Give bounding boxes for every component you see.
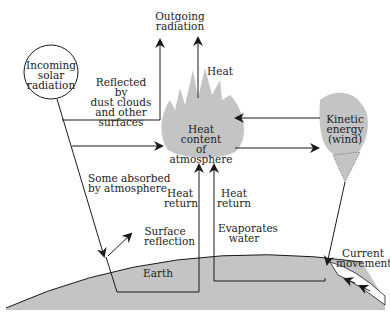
heat-return-2-label: Heat return [217, 188, 251, 208]
earth-shape [6, 255, 385, 310]
incoming-solar-label: Incoming solar radiation [24, 60, 78, 90]
earth-label: Earth [140, 268, 176, 278]
current-movement-label: Current movement [336, 248, 390, 268]
heat-return-1-label: Heat return [164, 188, 196, 208]
energy-flow-diagram: Incoming solar radiation Outgoing radiat… [0, 0, 390, 323]
some-absorbed-label: Some absorbed by atmosphere [88, 173, 170, 193]
outgoing-radiation-label: Outgoing radiation [150, 11, 210, 31]
evaporates-water-label: Evaporates water [218, 223, 270, 243]
heat-content-label: Heat content of atmosphere [168, 124, 234, 164]
reflected-label: Reflected by dust clouds and other surfa… [88, 77, 154, 127]
surface-reflection-label: Surface reflection [144, 226, 186, 246]
kinetic-energy-label: Kinetic energy (wind) [322, 114, 368, 144]
heat-label: Heat [205, 66, 235, 76]
tornado-funnel [333, 152, 360, 182]
